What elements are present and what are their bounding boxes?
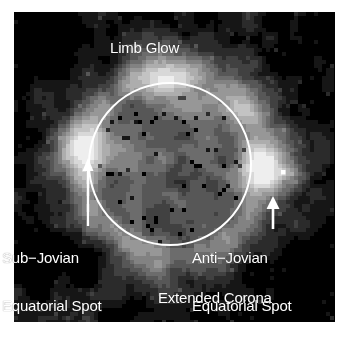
label-extended-corona: Extended Corona (158, 290, 272, 306)
label-anti-jovian-equatorial-spot: Anti−Jovian Equatorial Spot (192, 218, 292, 337)
label-anti-jovian-line-1: Anti−Jovian (192, 250, 292, 266)
astronomical-figure: Limb Glow Sub−Jovian Equatorial Spot Ant… (0, 0, 352, 337)
label-sub-jovian-line-1: Sub−Jovian (2, 250, 102, 266)
label-sub-jovian-equatorial-spot: Sub−Jovian Equatorial Spot (2, 218, 102, 337)
label-sub-jovian-line-2: Equatorial Spot (2, 298, 102, 314)
label-limb-glow: Limb Glow (110, 40, 179, 56)
